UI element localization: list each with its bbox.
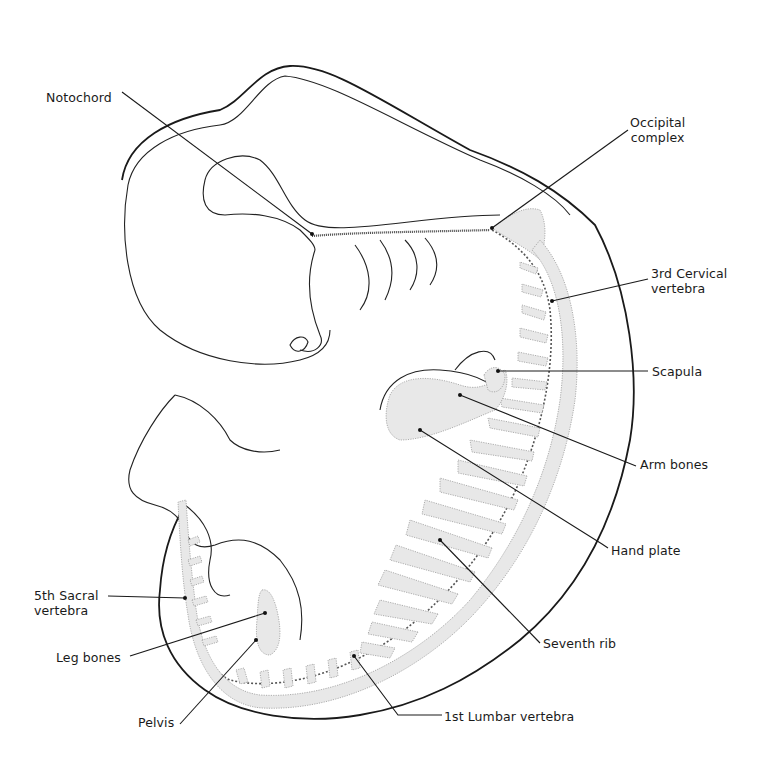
label-scapula: Scapula bbox=[652, 364, 702, 379]
label-notochord: Notochord bbox=[46, 90, 112, 105]
leader-notochord bbox=[122, 92, 312, 234]
pharyngeal-arch-3 bbox=[380, 240, 392, 300]
label-cervical-line1: 3rd Cervical bbox=[651, 266, 727, 281]
label-sacral-line2: vertebra bbox=[34, 603, 99, 618]
pharyngeal-arch-5 bbox=[425, 238, 437, 285]
pharyngeal-arch-2 bbox=[355, 245, 369, 310]
ribs bbox=[360, 262, 548, 658]
label-arm-bones: Arm bones bbox=[640, 457, 708, 472]
leg-bones-mass bbox=[256, 590, 280, 655]
label-seventh-rib: Seventh rib bbox=[543, 636, 616, 651]
label-1st-lumbar-vertebra: 1st Lumbar vertebra bbox=[444, 709, 574, 724]
lumbar-vertebrae bbox=[236, 650, 360, 688]
notochord-line bbox=[312, 230, 490, 236]
belly-outline bbox=[129, 395, 302, 640]
label-occipital-complex: Occipital complex bbox=[630, 115, 685, 145]
label-3rd-cervical-vertebra: 3rd Cervical vertebra bbox=[651, 266, 727, 296]
pharyngeal-arch-1 bbox=[300, 250, 321, 351]
brain-lobe-lower bbox=[203, 180, 315, 250]
eye-outline bbox=[290, 337, 308, 351]
pharyngeal-arch-4 bbox=[405, 240, 417, 290]
label-hand-plate: Hand plate bbox=[611, 543, 681, 558]
label-occipital-line2: complex bbox=[630, 130, 685, 145]
cloaca-outline bbox=[175, 395, 280, 452]
label-cervical-line2: vertebra bbox=[651, 281, 727, 296]
label-occipital-line1: Occipital bbox=[630, 115, 685, 130]
label-pelvis: Pelvis bbox=[138, 715, 174, 730]
leader-occipital bbox=[492, 130, 628, 228]
label-sacral-line1: 5th Sacral bbox=[34, 588, 99, 603]
label-leg-bones: Leg bones bbox=[56, 650, 121, 665]
brain-lobe bbox=[205, 156, 500, 228]
leader-5th-sacral bbox=[108, 596, 185, 598]
label-5th-sacral-vertebra: 5th Sacral vertebra bbox=[34, 588, 99, 618]
